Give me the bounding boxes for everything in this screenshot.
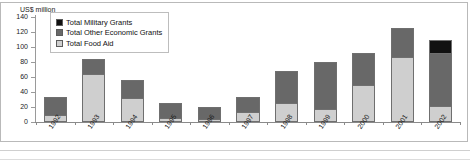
page-rule-bottom xyxy=(0,159,470,160)
x-tick-mark xyxy=(306,122,307,125)
y-tick-mark xyxy=(31,47,35,48)
stacked-bar[interactable] xyxy=(352,53,375,122)
y-tick-mark xyxy=(31,122,35,123)
x-tick-mark xyxy=(152,122,153,125)
x-tick-mark xyxy=(460,122,461,125)
chart-legend: Total Military Grants Total Other Econom… xyxy=(50,12,169,53)
bar-group[interactable] xyxy=(352,17,375,122)
bar-group[interactable] xyxy=(314,17,337,122)
bar-group[interactable] xyxy=(275,17,298,122)
y-tick-mark xyxy=(31,92,35,93)
y-tick-mark xyxy=(31,77,35,78)
stacked-bar[interactable] xyxy=(391,28,414,122)
y-tick-label: 40 xyxy=(6,88,28,95)
legend-label-other-economic: Total Other Economic Grants xyxy=(66,28,162,37)
bar-segment-food-aid xyxy=(392,57,413,121)
y-tick-label: 0 xyxy=(6,118,28,125)
bar-segment-military xyxy=(430,41,451,53)
x-tick-mark xyxy=(344,122,345,125)
bar-group[interactable] xyxy=(236,17,259,122)
legend-item: Total Military Grants xyxy=(56,18,162,27)
legend-label-food-aid: Total Food Aid xyxy=(66,39,114,48)
y-tick-mark xyxy=(31,17,35,18)
x-tick-mark xyxy=(229,122,230,125)
bar-segment-other-economic xyxy=(276,72,297,103)
bar-segment-other-economic xyxy=(430,53,451,105)
page-rule-top xyxy=(0,150,470,151)
legend-item: Total Other Economic Grants xyxy=(56,28,162,37)
legend-label-military: Total Military Grants xyxy=(66,18,132,27)
y-tick-label: 120 xyxy=(6,28,28,35)
bar-segment-other-economic xyxy=(83,60,104,74)
legend-item: Total Food Aid xyxy=(56,39,162,48)
x-tick-mark xyxy=(113,122,114,125)
chart-screenshot: US$ million 020406080100120140 199219931… xyxy=(0,0,470,161)
bar-segment-other-economic xyxy=(353,54,374,85)
y-tick-label: 100 xyxy=(6,43,28,50)
bar-segment-other-economic xyxy=(392,29,413,57)
legend-swatch-other-economic xyxy=(56,29,63,36)
y-tick-mark xyxy=(31,107,35,108)
bar-group[interactable] xyxy=(429,17,452,122)
bar-segment-other-economic xyxy=(237,98,258,112)
x-tick-mark xyxy=(421,122,422,125)
x-tick-mark xyxy=(267,122,268,125)
stacked-bar[interactable] xyxy=(429,40,452,122)
bar-segment-other-economic xyxy=(122,81,143,98)
y-tick-mark xyxy=(31,62,35,63)
y-tick-mark xyxy=(31,32,35,33)
x-tick-mark xyxy=(383,122,384,125)
bar-segment-other-economic xyxy=(315,63,336,109)
y-tick-label: 60 xyxy=(6,73,28,80)
y-tick-label: 20 xyxy=(6,103,28,110)
y-tick-label: 140 xyxy=(6,13,28,20)
x-tick-mark xyxy=(190,122,191,125)
x-tick-mark xyxy=(75,122,76,125)
x-tick-mark xyxy=(36,122,37,125)
legend-swatch-food-aid xyxy=(56,40,63,47)
legend-swatch-military xyxy=(56,19,63,26)
bar-group[interactable] xyxy=(198,17,221,122)
y-tick-label: 80 xyxy=(6,58,28,65)
bar-group[interactable] xyxy=(391,17,414,122)
